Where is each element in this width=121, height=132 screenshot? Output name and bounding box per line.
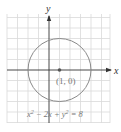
x-axis-label: x xyxy=(113,65,119,76)
center-point-label: (1, 0) xyxy=(56,76,76,86)
equation-label: x2 − 2x + y2 = 8 xyxy=(26,109,84,119)
grid xyxy=(7,14,110,123)
y-axis-arrow-icon xyxy=(47,15,51,21)
x-axis-arrow-icon xyxy=(106,68,112,72)
coordinate-graph: x y (1, 0) x2 − 2x + y2 = 8 xyxy=(0,0,121,132)
y-axis-label: y xyxy=(45,3,51,14)
center-point xyxy=(58,68,62,72)
